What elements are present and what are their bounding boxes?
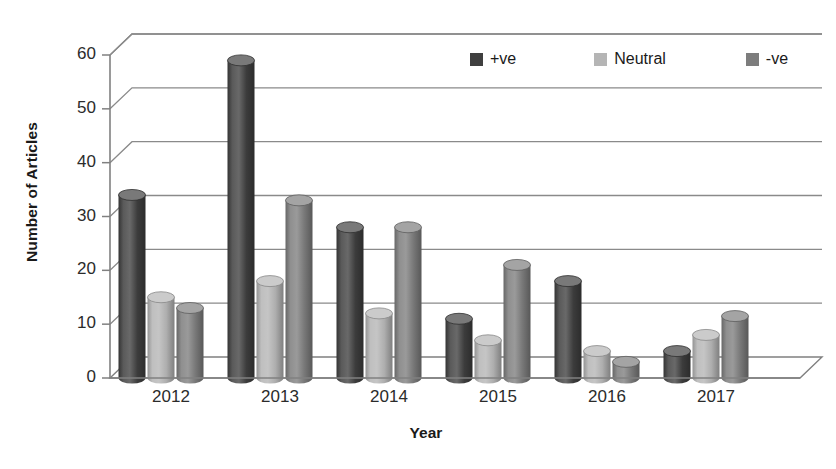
x-axis-tick-label: 2015	[453, 387, 543, 407]
bar	[119, 189, 146, 383]
bar	[693, 329, 720, 383]
bar-cap	[228, 55, 255, 66]
y-axis-tick-label: 0	[50, 367, 96, 387]
legend-swatch-icon	[470, 53, 483, 66]
gridline	[110, 142, 822, 163]
bar-body	[446, 319, 473, 384]
bar-cap	[395, 222, 422, 233]
bar	[257, 276, 284, 384]
legend-label: Neutral	[614, 50, 666, 68]
bar	[148, 292, 175, 384]
bar-cap	[177, 303, 204, 314]
bar-body	[177, 308, 204, 383]
gridline	[110, 88, 822, 109]
bar-cap	[555, 276, 582, 287]
x-axis-tick-labels: 201220132014201520162017	[0, 387, 836, 417]
bar-cap	[446, 313, 473, 324]
bar-cap	[148, 292, 175, 303]
bar-body	[286, 200, 313, 383]
bar-cap	[664, 346, 691, 357]
bar	[337, 222, 364, 384]
chart-legend: +veNeutral-ve	[470, 46, 788, 72]
y-axis-tick-label: 30	[50, 206, 96, 226]
x-axis-title-label: Year	[410, 424, 443, 441]
x-axis-tick-label: 2016	[562, 387, 652, 407]
bar	[504, 259, 531, 383]
y-axis	[102, 55, 110, 378]
bars-layer	[119, 55, 749, 384]
bar-body	[584, 351, 611, 383]
y-axis-tick-label: 60	[50, 44, 96, 64]
bar	[722, 311, 749, 384]
gridline	[110, 196, 822, 217]
bar-body	[148, 297, 175, 383]
bar-cap	[693, 329, 720, 340]
legend-swatch-icon	[746, 53, 759, 66]
bar-cap	[119, 189, 146, 200]
bar	[555, 276, 582, 384]
bar-body	[555, 281, 582, 383]
bar-cap	[504, 259, 531, 270]
x-axis-tick-label: 2017	[671, 387, 761, 407]
bar-body	[693, 335, 720, 384]
x-axis-tick-label: 2014	[344, 387, 434, 407]
bar	[228, 55, 255, 384]
bar-body	[257, 281, 284, 383]
bar-cap	[584, 346, 611, 357]
legend-label: +ve	[490, 50, 516, 68]
bar	[177, 303, 204, 384]
chart-floor	[110, 357, 822, 378]
bar-body	[722, 316, 749, 383]
gridline	[110, 303, 822, 324]
bar-cap	[257, 276, 284, 287]
x-axis-tick-label: 2013	[235, 387, 325, 407]
bar	[475, 335, 502, 384]
bar	[366, 308, 393, 384]
bar	[664, 346, 691, 384]
bar-body	[504, 265, 531, 384]
bar	[584, 346, 611, 384]
bar-cap	[722, 311, 749, 322]
gridline	[110, 249, 822, 270]
floor-plane	[110, 357, 822, 378]
bar-body	[366, 313, 393, 383]
legend-item-minusve[interactable]: -ve	[746, 50, 788, 68]
y-axis-tick-label: 20	[50, 259, 96, 279]
legend-item-Neutral[interactable]: Neutral	[594, 50, 666, 68]
bar-cap	[286, 195, 313, 206]
bar-body	[228, 60, 255, 383]
gridlines	[110, 34, 822, 324]
x-axis-title: Year	[0, 424, 836, 442]
y-axis-tick-label: 40	[50, 152, 96, 172]
bar	[446, 313, 473, 383]
legend-item-plusve[interactable]: +ve	[470, 50, 516, 68]
bar-body	[475, 340, 502, 383]
bar-body	[664, 351, 691, 383]
bar-body	[613, 362, 640, 384]
y-axis-tick-label: 50	[50, 98, 96, 118]
y-axis-title: Number of Articles	[23, 92, 41, 292]
legend-label: -ve	[766, 50, 788, 68]
x-axis-tick-label: 2012	[126, 387, 216, 407]
bar-body	[119, 195, 146, 384]
bar-body	[337, 227, 364, 383]
bar-cap	[337, 222, 364, 233]
bar-cap	[366, 308, 393, 319]
bar-cap	[613, 356, 640, 367]
legend-swatch-icon	[594, 53, 607, 66]
bar	[395, 222, 422, 384]
bar	[286, 195, 313, 384]
bar-cap	[475, 335, 502, 346]
bar-body	[395, 227, 422, 383]
y-axis-tick-label: 10	[50, 313, 96, 333]
bar-chart: Number of Articles 6050403020100 2012201…	[0, 0, 836, 469]
bar	[613, 356, 640, 383]
